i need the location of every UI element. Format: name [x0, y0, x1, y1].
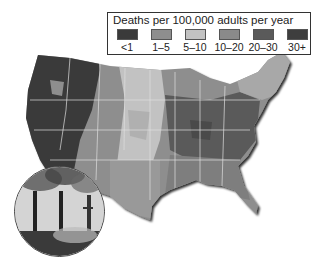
legend-label: 10–20: [214, 41, 243, 53]
legend-item-20-30: 20–30: [248, 29, 278, 53]
legend-title: Deaths per 100,000 adults per year: [113, 14, 293, 26]
legend-items: <1 1–5 5–10 10–20 20–30 30+: [112, 29, 312, 53]
legend-label: 5–10: [183, 41, 206, 53]
legend: Deaths per 100,000 adults per year <1 1–…: [107, 12, 311, 55]
legend-swatch: [185, 29, 206, 40]
smokestack-photo: [14, 166, 105, 257]
legend-label: 20–30: [248, 41, 277, 53]
legend-swatch: [219, 29, 240, 40]
legend-label: <1: [121, 41, 133, 53]
legend-item-30plus: 30+: [282, 29, 312, 53]
legend-label: 1–5: [152, 41, 170, 53]
legend-swatch: [117, 29, 138, 40]
legend-item-10-20: 10–20: [214, 29, 244, 53]
smokestacks-icon: [15, 167, 104, 256]
legend-label: 30+: [288, 41, 306, 53]
legend-item-5-10: 5–10: [180, 29, 210, 53]
legend-swatch: [151, 29, 172, 40]
legend-swatch: [287, 29, 308, 40]
legend-item-1-5: 1–5: [146, 29, 176, 53]
legend-swatch: [253, 29, 274, 40]
legend-item-lt1: <1: [112, 29, 142, 53]
